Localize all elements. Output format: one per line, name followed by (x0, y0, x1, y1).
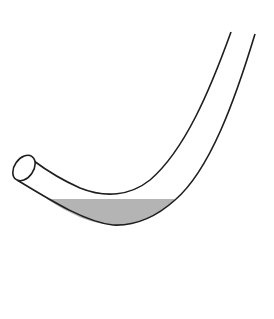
liquid-fill (47, 199, 175, 225)
diagram-canvas (0, 0, 274, 319)
tube-inner-wall (34, 32, 231, 194)
tube-opening (8, 151, 40, 185)
bent-tube-figure (0, 0, 274, 319)
